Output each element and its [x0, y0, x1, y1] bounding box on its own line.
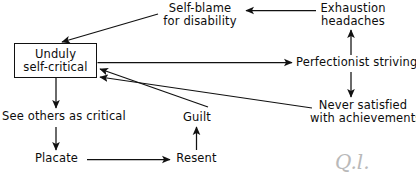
node-self-blame-for-disability: Self-blame for disability	[161, 2, 239, 27]
node-guilt: Guilt	[181, 111, 213, 124]
node-perfectionist-striving: Perfectionist striving	[296, 56, 416, 69]
node-placate: Placate	[34, 152, 79, 165]
node-see-others-as-critical: See others as critical	[2, 110, 124, 123]
node-exhaustion-headaches: Exhaustion headaches	[317, 2, 389, 27]
edge-self-blame-to-unduly	[62, 14, 158, 42]
node-resent: Resent	[174, 152, 219, 165]
edge-never-satisfied-to-unduly	[100, 77, 312, 108]
node-never-satisfied-with-achievements: Never satisfied with achievements	[310, 99, 416, 124]
handwritten-annotation: Q.l.	[335, 150, 370, 174]
diagram-canvas: Unduly self-critical Self-blame for disa…	[0, 0, 416, 179]
node-unduly-self-critical: Unduly self-critical	[14, 43, 97, 78]
edge-guilt-to-unduly	[100, 69, 208, 107]
